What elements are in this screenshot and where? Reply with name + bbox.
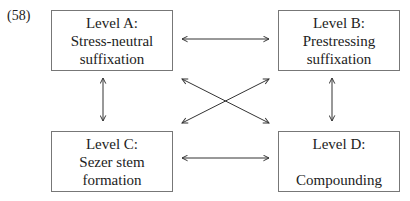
level-b-line-2: Prestressing — [303, 32, 376, 50]
level-b-line-3: suffixation — [307, 50, 372, 68]
level-c-box: Level C: Sezer stem formation — [51, 131, 173, 192]
level-d-box: Level D: Compounding — [278, 131, 400, 192]
level-a-box: Level A: Stress-neutral suffixation — [51, 10, 173, 71]
level-b-box: Level B: Prestressing suffixation — [278, 10, 400, 71]
level-d-title: Level D: — [313, 135, 366, 153]
level-b-title: Level B: — [313, 14, 365, 32]
level-a-title: Level A: — [86, 14, 138, 32]
level-a-line-3: suffixation — [80, 50, 145, 68]
level-a-line-2: Stress-neutral — [71, 32, 153, 50]
level-c-line-3: formation — [82, 171, 141, 189]
level-d-line-3: Compounding — [296, 171, 382, 189]
level-c-title: Level C: — [86, 135, 138, 153]
level-c-line-2: Sezer stem — [79, 153, 144, 171]
